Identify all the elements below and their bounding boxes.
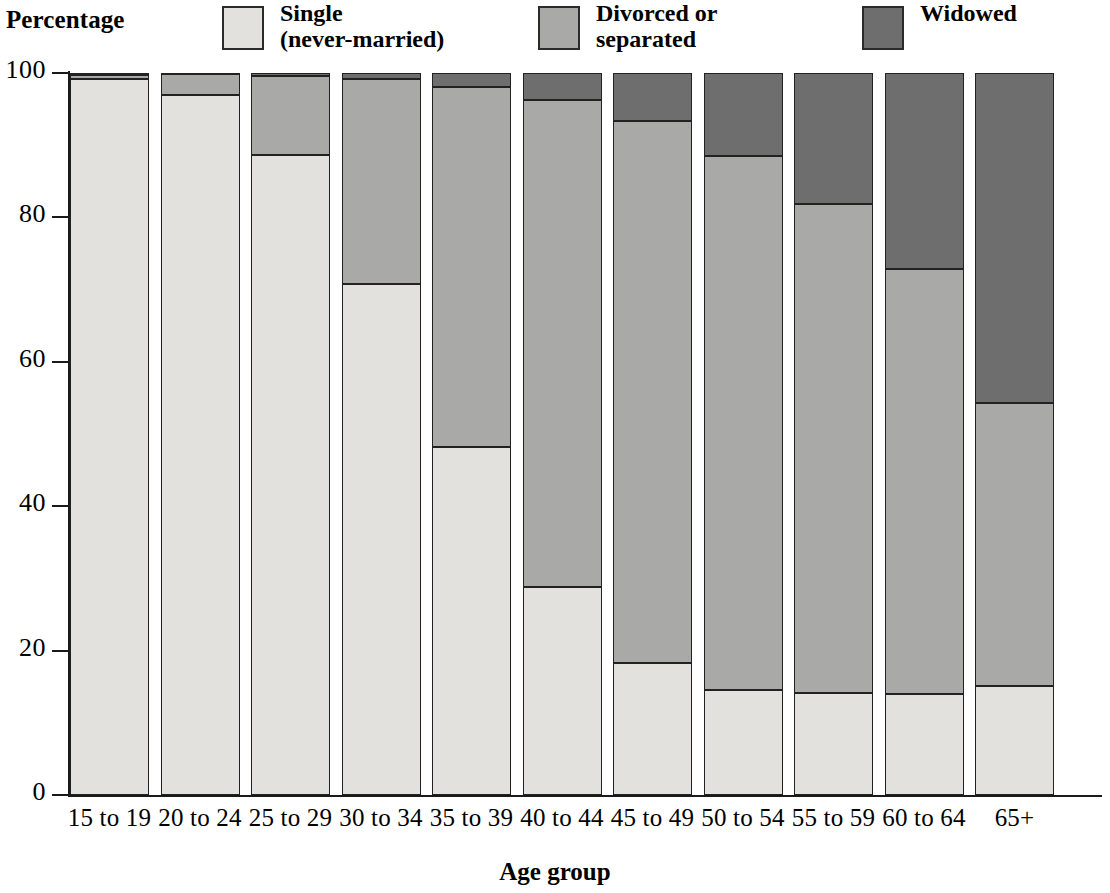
bar-segment-single (613, 663, 692, 795)
y-axis-tick (52, 505, 69, 507)
bar-segment-widowed (342, 73, 421, 79)
bar-segment-widowed (613, 73, 692, 121)
bar-stack (161, 73, 240, 795)
bar-segment-divorced (523, 100, 602, 587)
x-axis-title: Age group (0, 858, 1110, 886)
bar-stack (794, 73, 873, 795)
chart-legend: Percentage Single (never-married) Divorc… (0, 0, 1110, 60)
x-axis-line (68, 795, 1102, 797)
y-axis-tick-label: 20 (0, 633, 46, 663)
bar-segment-widowed (885, 73, 964, 269)
y-axis-tick (52, 650, 69, 652)
bar-segment-divorced (794, 204, 873, 693)
bar-segment-widowed (161, 73, 240, 75)
bar-stack (885, 73, 964, 795)
legend-label-widowed: Widowed (920, 0, 1017, 26)
bar-segment-divorced (161, 74, 240, 94)
bar-segment-single (523, 587, 602, 795)
bar-segment-divorced (613, 121, 692, 663)
bar-segment-widowed (251, 73, 330, 76)
bar-segment-widowed (704, 73, 783, 156)
y-axis-tick (52, 216, 69, 218)
bar-segment-divorced (432, 87, 511, 447)
y-axis-tick-label: 100 (0, 55, 46, 85)
bar-segment-divorced (70, 75, 149, 79)
bar-segment-single (885, 694, 964, 795)
y-axis-title: Percentage (6, 6, 125, 34)
bar-segment-divorced (975, 403, 1054, 686)
bar-segment-widowed (432, 73, 511, 87)
bar-segment-single (70, 79, 149, 795)
legend-swatch-divorced-icon (538, 6, 580, 50)
bar-segment-divorced (251, 76, 330, 155)
bar-stack (432, 73, 511, 795)
y-axis-tick (52, 72, 69, 74)
bar-segment-divorced (885, 269, 964, 694)
legend-label-single: Single (never-married) (280, 0, 444, 52)
bar-stack (975, 73, 1054, 795)
x-axis-tick-label: 65+ (955, 804, 1075, 832)
y-axis-tick (52, 361, 69, 363)
legend-label-divorced: Divorced or separated (596, 0, 718, 52)
bar-segment-single (161, 95, 240, 795)
bar-segment-widowed (523, 73, 602, 100)
bar-segment-widowed (70, 73, 149, 75)
bar-stack (523, 73, 602, 795)
bar-stack (70, 73, 149, 795)
bar-stack (613, 73, 692, 795)
bar-stack (251, 73, 330, 795)
y-axis-tick-label: 60 (0, 344, 46, 374)
y-axis-tick-label: 0 (0, 777, 46, 807)
bar-stack (342, 73, 421, 795)
bar-segment-single (432, 447, 511, 795)
bar-segment-single (251, 155, 330, 795)
chart-plot-area: 100806040200 15 to 1920 to 2425 to 2930 … (0, 60, 1110, 820)
y-axis-tick-label: 80 (0, 199, 46, 229)
y-axis-tick-label: 40 (0, 488, 46, 518)
bar-stack (704, 73, 783, 795)
bar-segment-widowed (975, 73, 1054, 403)
bar-segment-divorced (704, 156, 783, 690)
legend-swatch-widowed-icon (862, 6, 904, 50)
bar-segment-single (975, 686, 1054, 795)
bar-segment-divorced (342, 79, 421, 284)
bar-segment-single (794, 693, 873, 795)
bar-segment-single (704, 690, 783, 795)
legend-swatch-single-icon (222, 6, 264, 50)
y-axis-tick (52, 794, 69, 796)
bar-segment-widowed (794, 73, 873, 204)
bar-segment-single (342, 284, 421, 795)
